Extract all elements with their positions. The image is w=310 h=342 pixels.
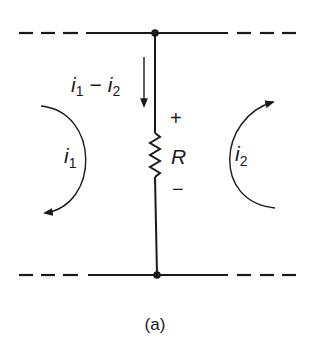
resistor-icon <box>150 133 160 177</box>
loop-right-label: i2 <box>235 142 248 169</box>
circuit-diagram: i1−i2 + R − i1 i2 (a) <box>0 0 310 342</box>
polarity-plus: + <box>170 107 182 129</box>
resistor-label: R <box>171 145 186 168</box>
branch-current-label: i1−i2 <box>71 73 120 99</box>
polarity-minus: − <box>172 178 184 200</box>
resistor-branch <box>150 33 160 275</box>
loop-left-label: i1 <box>64 144 77 171</box>
figure-caption: (a) <box>145 315 166 334</box>
